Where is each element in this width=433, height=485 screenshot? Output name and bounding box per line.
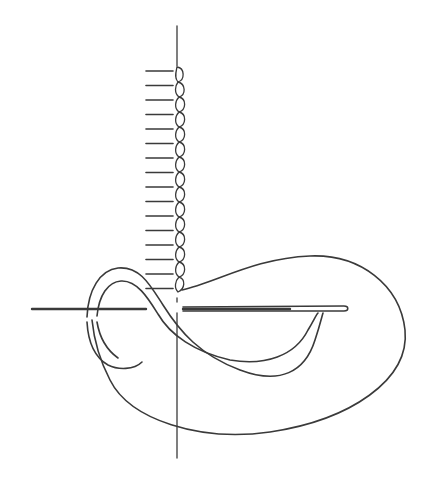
tick-marks	[146, 71, 173, 289]
s-thread-outer	[87, 268, 323, 376]
chain-stitches	[175, 67, 184, 292]
thread-hook-inner	[97, 322, 118, 358]
figure-canvas	[0, 0, 433, 485]
thread-hook	[87, 322, 142, 368]
s-thread-inner	[97, 281, 318, 362]
chain-stitch-illustration	[0, 0, 433, 485]
needle	[183, 306, 348, 311]
outer-thread-loop	[92, 256, 405, 434]
